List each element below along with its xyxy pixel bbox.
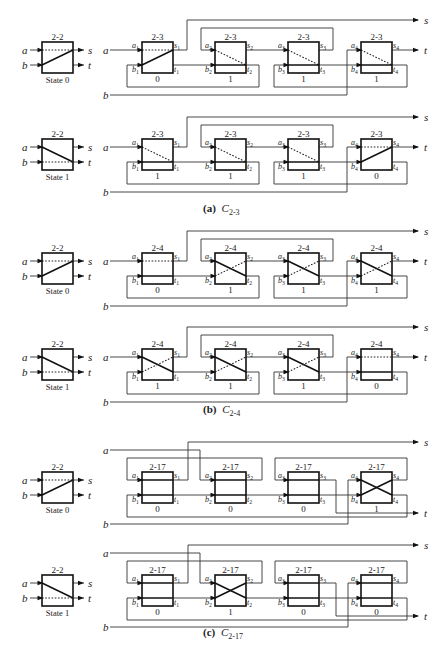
switch-box: 2-17a2b2s2t21 (205, 565, 253, 618)
component-label: 2-3 (371, 129, 383, 139)
box-state-value: 0 (155, 285, 160, 295)
component-label: 2-4 (225, 339, 237, 349)
box-state-value: 1 (228, 285, 233, 295)
switch-box: 2-4a3b3s3t31 (278, 243, 326, 296)
switch-box: 2-17a3b3s3t30 (278, 565, 326, 618)
port-label: a3 (278, 574, 285, 584)
switch-box: 2-3a1b1s1t11 (132, 129, 180, 182)
port-label: t3 (320, 276, 325, 286)
switch-box: 2-4a1b1s1t10 (132, 243, 180, 296)
switch-body (288, 472, 319, 503)
component-label: 2-4 (152, 243, 164, 253)
port-label: a3 (278, 348, 285, 358)
network-input-b: b (103, 186, 109, 198)
switch-box: 2-17a2b2s2t20 (205, 462, 253, 515)
port-label: s3 (320, 252, 326, 262)
network-input-b: b (103, 621, 109, 633)
subfigure-caption: (a) C2-3 (203, 202, 240, 217)
component-label: 2-2 (52, 32, 64, 42)
port-label: t1 (174, 162, 179, 172)
input-label-b: b (22, 366, 28, 378)
port-label: a2 (205, 41, 212, 51)
port-label: t1 (174, 495, 179, 505)
network-output-s: s (424, 14, 428, 26)
port-label: t4 (393, 495, 398, 505)
component-label: 2-3 (225, 129, 237, 139)
network-row: abst2-2State 1asbt2-4a1b1s1t112-4a2b2s2t… (22, 321, 428, 408)
output-label-t: t (88, 489, 92, 501)
switch-box: 2-17a3b3s3t30 (278, 462, 326, 515)
port-label: a1 (132, 138, 139, 148)
arrowhead-icon (78, 596, 84, 600)
network-row: abst2-2State 0asbt2-3a1b1s1t102-3a2b2s2t… (22, 14, 428, 101)
port-label: s3 (320, 471, 326, 481)
network-output-t: t (424, 255, 428, 267)
box-state-value: 0 (228, 504, 233, 514)
port-label: a4 (351, 471, 358, 481)
subfigure-b: abst2-2State 0asbt2-4a1b1s1t102-4a2b2s2t… (22, 225, 428, 418)
arrowhead-icon (78, 145, 84, 149)
switch-network-figure: abst2-2State 0asbt2-3a1b1s1t102-3a2b2s2t… (0, 0, 448, 661)
input-label-b: b (22, 59, 28, 71)
component-label: 2-17 (368, 462, 385, 472)
port-label: a1 (132, 348, 139, 358)
arrowhead-icon (78, 493, 84, 497)
port-label: t2 (247, 598, 252, 608)
box-state-value: 0 (301, 607, 306, 617)
component-label: 2-2 (52, 565, 64, 575)
arrowhead-icon (78, 370, 84, 374)
switch-box: 2-3a4b4s4t40 (351, 129, 399, 182)
component-label: 2-17 (149, 565, 166, 575)
box-state-value: 1 (374, 285, 379, 295)
port-label: a4 (351, 574, 358, 584)
box-state-value: 0 (374, 381, 379, 391)
port-label: s2 (247, 41, 253, 51)
input-label-b: b (22, 489, 28, 501)
network-output-t: t (424, 507, 428, 519)
arrowhead-icon (413, 511, 419, 515)
port-label: t2 (247, 276, 252, 286)
network-output-s: s (424, 436, 428, 448)
switch-box: 2-17a4b4s4t40 (351, 565, 399, 618)
switch-box: 2-4a4b4s4t40 (351, 339, 399, 392)
port-label: s4 (393, 252, 399, 262)
network-output-t: t (424, 44, 428, 56)
box-state-value: 1 (155, 171, 160, 181)
arrowhead-icon (413, 614, 419, 618)
port-label: a1 (132, 574, 139, 584)
switch-box: 2-3a3b3s3t31 (278, 129, 326, 182)
box-state-value: 1 (301, 171, 306, 181)
port-label: t1 (174, 372, 179, 382)
box-state-value: 1 (301, 74, 306, 84)
input-label-b: b (22, 270, 28, 282)
component-label: 2-3 (152, 129, 164, 139)
box-state-value: 1 (228, 74, 233, 84)
component-label: 2-3 (371, 32, 383, 42)
port-label: t3 (320, 598, 325, 608)
input-label-b: b (22, 592, 28, 604)
network-row: abst2-2State 1asbt2-3a1b1s1t112-3a2b2s2t… (22, 111, 428, 198)
component-label: 2-2 (52, 462, 64, 472)
component-label: 2-4 (152, 339, 164, 349)
port-label: a2 (205, 252, 212, 262)
arrowhead-icon (413, 440, 419, 444)
port-label: s1 (174, 574, 180, 584)
port-label: a2 (205, 138, 212, 148)
figure-root: abst2-2State 0asbt2-3a1b1s1t102-3a2b2s2t… (0, 0, 448, 661)
arrowhead-icon (78, 63, 84, 67)
network-input-a: a (103, 141, 109, 153)
switch-body (361, 575, 392, 606)
network-output-s: s (424, 225, 428, 237)
subfigure-caption: (b) C2-4 (203, 403, 240, 418)
arrowhead-icon (78, 259, 84, 263)
port-label: a3 (278, 471, 285, 481)
port-label: s1 (174, 41, 180, 51)
input-label-a: a (22, 351, 28, 363)
port-label: t4 (393, 598, 398, 608)
box-state-value: 0 (155, 607, 160, 617)
port-label: s4 (393, 574, 399, 584)
arrowhead-icon (78, 274, 84, 278)
component-label: 2-3 (225, 32, 237, 42)
network-row: abst2-2State 0asbt2-4a1b1s1t102-4a2b2s2t… (22, 225, 428, 312)
port-label: t3 (320, 162, 325, 172)
